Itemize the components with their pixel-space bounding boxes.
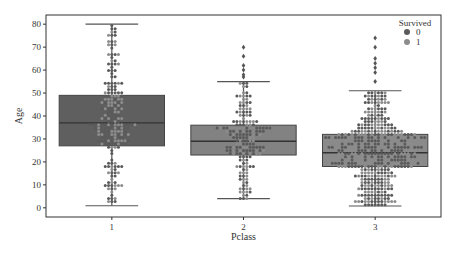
swarm-point [107,171,110,174]
swarm-point [413,133,416,136]
swarm-point [245,194,248,197]
swarm-point [370,155,373,158]
swarm-point [97,133,100,136]
swarm-point [110,91,113,94]
swarm-point [403,165,406,168]
swarm-point [377,98,380,101]
swarm-point [407,136,410,139]
swarm-point [97,130,100,133]
swarm-point [114,200,117,203]
swarm-point [239,152,242,155]
swarm-point [245,136,248,139]
swarm-point [239,101,242,104]
swarm-point [403,139,406,142]
swarm-point [100,127,103,130]
swarm-point [110,149,113,152]
swarm-point [360,139,363,142]
swarm-point [232,152,235,155]
swarm-point [252,165,255,168]
swarm-point [259,146,262,149]
swarm-point [387,149,390,152]
swarm-point [380,162,383,165]
swarm-point [130,123,133,126]
swarm-point [397,133,400,136]
swarm-point [117,133,120,136]
swarm-point [364,203,367,206]
swarm-point [347,159,350,162]
swarm-point [380,95,383,98]
swarm-point [370,130,373,133]
swarm-point [110,191,113,194]
swarm-point [367,98,370,101]
swarm-point [255,133,258,136]
swarm-point [242,117,245,120]
swarm-point [110,43,113,46]
swarm-point [114,88,117,91]
swarm-point [380,171,383,174]
swarm-point [390,123,393,126]
swarm-point [117,120,120,123]
swarm-point [110,123,113,126]
swarm-point [87,123,90,126]
swarm-point [245,82,248,85]
swarm-point [351,143,354,146]
swarm-point [380,203,383,206]
swarm-point [380,191,383,194]
swarm-point [107,146,110,149]
swarm-point [377,133,380,136]
swarm-point [364,162,367,165]
swarm-point [110,197,113,200]
swarm-point [377,171,380,174]
swarm-point [104,98,107,101]
swarm-point [242,171,245,174]
swarm-point [239,149,242,152]
swarm-point [341,149,344,152]
swarm-point [370,200,373,203]
swarm-point [364,133,367,136]
swarm-point [114,184,117,187]
swarm-point [341,133,344,136]
swarm-point [242,168,245,171]
swarm-point [97,127,100,130]
swarm-point [114,34,117,37]
swarm-point [245,162,248,165]
swarm-point [262,146,265,149]
swarm-point [255,149,258,152]
swarm-point [91,123,94,126]
swarm-point [393,146,396,149]
swarm-point [120,91,123,94]
y-axis-label: Age [13,107,24,124]
swarm-point [374,104,377,107]
swarm-point [377,107,380,110]
swarm-point [110,47,113,50]
swarm-point [232,133,235,136]
swarm-point [387,130,390,133]
swarm-point [249,165,252,168]
swarm-point [397,139,400,142]
swarm-point [410,143,413,146]
swarm-point [387,171,390,174]
swarm-point [337,146,340,149]
swarm-point [413,162,416,165]
swarm-point [387,197,390,200]
swarm-point [107,85,110,88]
swarm-point [110,187,113,190]
swarm-point [377,181,380,184]
swarm-point [104,91,107,94]
swarm-point [390,187,393,190]
swarm-point [107,120,110,123]
swarm-point [239,191,242,194]
swarm-point [341,165,344,168]
swarm-point [387,117,390,120]
swarm-point [380,127,383,130]
swarm-point [110,152,113,155]
swarm-point [100,143,103,146]
swarm-point [114,171,117,174]
swarm-point [232,146,235,149]
swarm-point [384,130,387,133]
swarm-point [124,130,127,133]
swarm-point [380,175,383,178]
swarm-point [245,120,248,123]
swarm-point [384,136,387,139]
swarm-point [107,143,110,146]
